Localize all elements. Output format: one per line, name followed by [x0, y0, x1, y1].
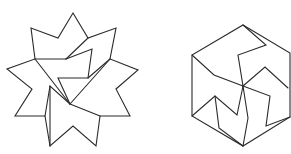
dissected-hexagon-figure	[192, 25, 290, 146]
dissected-hexagon-cut-line	[192, 86, 243, 116]
figure-canvas	[0, 0, 291, 154]
dissected-hexagon-cut-line	[238, 25, 266, 86]
dissected-hexagon-cut-line	[243, 86, 290, 126]
dissected-hexagon-cut-line	[192, 55, 243, 86]
dissected-hexagon-cut-line	[243, 86, 248, 146]
dissected-star-outline	[7, 13, 138, 146]
dissected-hexagon-cut-line	[243, 67, 288, 88]
dissected-star-cut-line	[88, 59, 110, 78]
dissected-star-cut-line	[35, 59, 70, 104]
dissected-star-figure	[7, 13, 138, 146]
dissected-hexagon-cut-line	[215, 96, 243, 146]
dissected-star-cut-line	[66, 38, 88, 59]
dissected-star-cut-line	[70, 104, 100, 116]
dissected-star-cut-line	[45, 86, 70, 116]
